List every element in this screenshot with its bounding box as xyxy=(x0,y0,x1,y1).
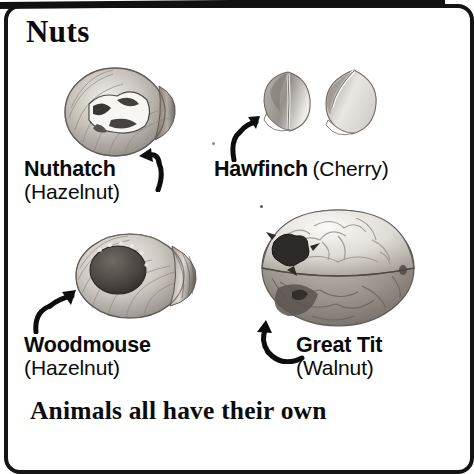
label-woodmouse: Woodmouse (Hazelnut) xyxy=(24,334,151,379)
label-nuthatch-animal: Nuthatch xyxy=(24,158,120,181)
footer-caption: Animals all have their own xyxy=(30,396,327,426)
arrow-to-hawfinch-nut-icon xyxy=(226,114,266,162)
label-greattit-nut: (Walnut) xyxy=(296,357,382,379)
arrow-to-nuthatch-nut-icon xyxy=(128,146,170,192)
label-woodmouse-animal: Woodmouse xyxy=(24,334,151,357)
hazelnut-gnawed-illustration xyxy=(68,222,204,326)
label-hawfinch: Hawfinch (Cherry) xyxy=(214,158,389,181)
walnut-pecked-illustration xyxy=(252,196,424,336)
print-speck xyxy=(260,205,263,208)
cherry-stones-illustration xyxy=(258,66,388,138)
label-nuthatch: Nuthatch (Hazelnut) xyxy=(24,158,120,203)
label-greattit: Great Tit (Walnut) xyxy=(296,334,382,379)
label-nuthatch-nut: (Hazelnut) xyxy=(24,181,120,203)
label-hawfinch-nut: (Cherry) xyxy=(312,157,388,180)
label-greattit-animal: Great Tit xyxy=(296,334,382,357)
label-woodmouse-nut: (Hazelnut) xyxy=(24,357,151,379)
page-title: Nuts xyxy=(26,16,90,47)
label-hawfinch-animal: Hawfinch xyxy=(214,157,308,181)
arrow-to-woodmouse-nut-icon xyxy=(30,288,82,334)
print-speck xyxy=(212,142,215,145)
